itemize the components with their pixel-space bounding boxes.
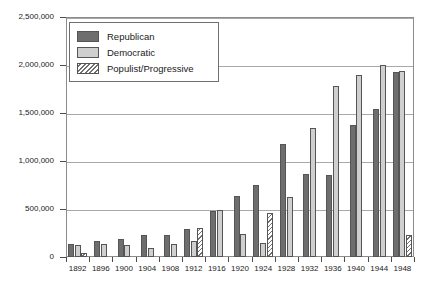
x-axis-tick-label: 1936 bbox=[321, 264, 344, 273]
x-axis-tick-label: 1900 bbox=[112, 264, 135, 273]
bar-republican-1900 bbox=[118, 239, 124, 257]
y-axis-tick-label: 1,000,000 bbox=[18, 157, 54, 165]
x-axis-tick bbox=[112, 257, 113, 262]
x-axis-tick bbox=[321, 257, 322, 262]
bar-democratic-1904 bbox=[148, 248, 154, 257]
bar-democratic-1948 bbox=[399, 71, 405, 257]
bar-democratic-1940 bbox=[356, 75, 362, 257]
x-axis-tick-label: 1908 bbox=[159, 264, 182, 273]
bar-democratic-1944 bbox=[380, 65, 386, 257]
bar-republican-1940 bbox=[350, 125, 356, 257]
y-axis-tick-label: 1,500,000 bbox=[18, 109, 54, 117]
bar-democratic-1900 bbox=[124, 245, 130, 257]
x-axis-tick bbox=[205, 257, 206, 262]
x-axis-tick-label: 1892 bbox=[66, 264, 89, 273]
x-axis-tick bbox=[298, 257, 299, 262]
x-axis-tick-label: 1924 bbox=[252, 264, 275, 273]
legend-swatch-democratic-icon bbox=[77, 47, 99, 58]
bar-republican-1916 bbox=[210, 211, 216, 257]
x-axis-tick-label: 1944 bbox=[368, 264, 391, 273]
legend-label-democratic: Democratic bbox=[107, 47, 155, 58]
x-axis-tick bbox=[414, 257, 415, 262]
bar-republican-1932 bbox=[303, 174, 309, 257]
bar-republican-1908 bbox=[164, 235, 170, 257]
legend-swatch-republican-icon bbox=[77, 31, 99, 42]
y-axis-tick-label: 2,000,000 bbox=[18, 61, 54, 69]
bar-democratic-1896 bbox=[101, 244, 107, 257]
y-axis: 0500,0001,000,0001,500,0002,000,0002,500… bbox=[0, 0, 66, 285]
x-axis-tick bbox=[159, 257, 160, 262]
y-axis-tick-label: 2,500,000 bbox=[18, 13, 54, 21]
x-axis-tick-label: 1948 bbox=[391, 264, 414, 273]
x-axis-tick-label: 1920 bbox=[228, 264, 251, 273]
bar-republican-1892 bbox=[68, 244, 74, 257]
bar-republican-1944 bbox=[373, 109, 379, 257]
legend-label-republican: Republican bbox=[107, 31, 155, 42]
x-axis-tick bbox=[368, 257, 369, 262]
x-axis-tick-label: 1912 bbox=[182, 264, 205, 273]
x-axis-tick-label: 1916 bbox=[205, 264, 228, 273]
bar-democratic-1924 bbox=[260, 243, 266, 257]
x-axis-tick bbox=[136, 257, 137, 262]
legend-item-democratic: Democratic bbox=[77, 44, 211, 60]
x-axis-tick bbox=[275, 257, 276, 262]
y-axis-tick-label: 500,000 bbox=[25, 205, 54, 213]
bar-populist-progressive-1924 bbox=[267, 213, 273, 257]
x-axis-tick bbox=[344, 257, 345, 262]
bar-democratic-1928 bbox=[287, 197, 293, 257]
bar-republican-1896 bbox=[94, 241, 100, 257]
bar-democratic-1916 bbox=[217, 210, 223, 257]
chart-legend: Republican Democratic Populist/Progressi… bbox=[69, 22, 219, 82]
legend-swatch-populist-progressive-icon bbox=[77, 63, 99, 74]
x-axis-tick bbox=[66, 257, 67, 262]
bar-republican-1912 bbox=[184, 229, 190, 257]
bar-chart: 0500,0001,000,0001,500,0002,000,0002,500… bbox=[0, 0, 422, 285]
x-axis-tick bbox=[89, 257, 90, 262]
bar-republican-1920 bbox=[234, 196, 240, 257]
bar-democratic-1908 bbox=[171, 244, 177, 257]
x-axis-tick bbox=[182, 257, 183, 262]
bar-democratic-1892 bbox=[75, 245, 81, 257]
bar-democratic-1912 bbox=[191, 241, 197, 257]
legend-item-republican: Republican bbox=[77, 28, 211, 44]
x-axis: 1892189619001904190819121916192019241928… bbox=[66, 257, 414, 285]
x-axis-tick bbox=[391, 257, 392, 262]
x-axis-tick-label: 1904 bbox=[136, 264, 159, 273]
bar-democratic-1932 bbox=[310, 128, 316, 257]
y-axis-tick-label: 0 bbox=[50, 253, 54, 261]
legend-item-populist-progressive: Populist/Progressive bbox=[77, 60, 211, 76]
x-axis-tick-label: 1940 bbox=[344, 264, 367, 273]
bar-democratic-1920 bbox=[240, 234, 246, 257]
bar-republican-1904 bbox=[141, 235, 147, 257]
bar-republican-1928 bbox=[280, 144, 286, 257]
bar-populist-progressive-1948 bbox=[406, 235, 412, 257]
x-axis-tick bbox=[252, 257, 253, 262]
legend-label-populist-progressive: Populist/Progressive bbox=[107, 63, 194, 74]
bar-republican-1948 bbox=[393, 72, 399, 257]
x-axis-tick bbox=[228, 257, 229, 262]
bar-democratic-1936 bbox=[333, 86, 339, 257]
x-axis-tick-label: 1932 bbox=[298, 264, 321, 273]
bar-populist-progressive-1912 bbox=[197, 228, 203, 257]
bar-republican-1924 bbox=[253, 185, 259, 257]
bar-republican-1936 bbox=[326, 175, 332, 257]
x-axis-tick-label: 1928 bbox=[275, 264, 298, 273]
x-axis-tick-label: 1896 bbox=[89, 264, 112, 273]
